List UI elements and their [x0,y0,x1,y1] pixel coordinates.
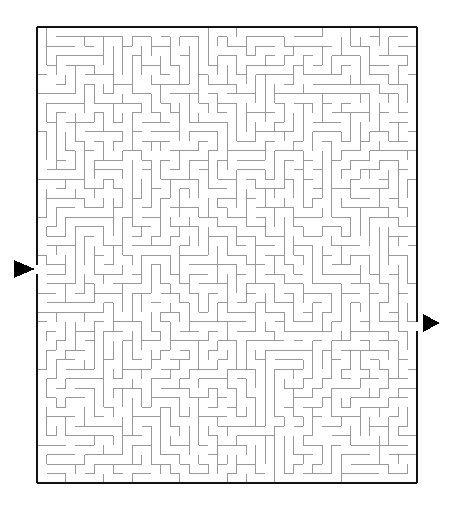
maze-puzzle-page [0,0,460,515]
maze-drawing [0,0,460,515]
maze-canvas [0,0,460,515]
